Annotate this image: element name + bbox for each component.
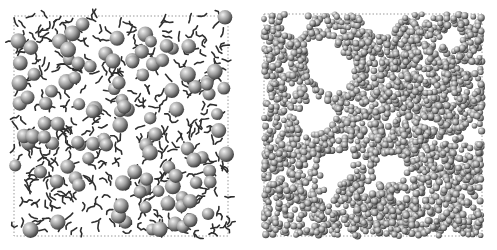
left-snapshot-image <box>0 0 250 250</box>
right-snapshot-image <box>250 0 497 250</box>
right-simulation-snapshot <box>250 0 497 250</box>
left-simulation-snapshot <box>0 0 250 250</box>
